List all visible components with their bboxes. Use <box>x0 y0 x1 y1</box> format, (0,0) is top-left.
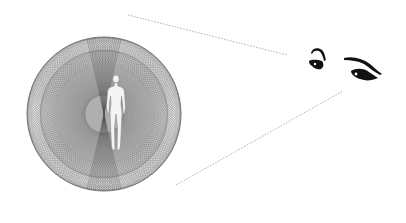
sightline-top <box>128 15 287 55</box>
energy-sphere <box>22 32 185 195</box>
illustration <box>0 0 406 223</box>
eyes <box>309 48 382 80</box>
sightline-bottom <box>176 91 343 185</box>
left-eye-icon <box>309 48 326 69</box>
diagram-canvas <box>0 0 406 223</box>
right-eye-icon <box>344 57 382 80</box>
